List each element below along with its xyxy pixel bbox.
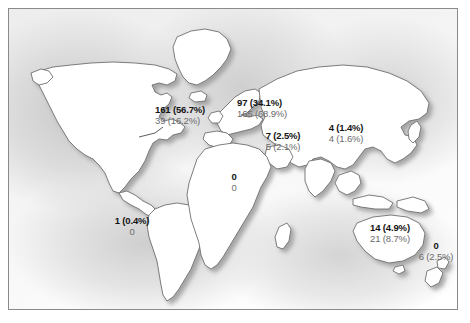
map-frame: 161 (56.7%) 39 (16.2%) 1 (0.4%) 0 97 (34… [8, 8, 458, 310]
label-middle-east-secondary: 5 (2.1%) [253, 142, 313, 153]
landmass-japan [408, 121, 421, 143]
landmass-north-america [39, 62, 185, 193]
label-new-zealand: 0 6 (2.5%) [412, 241, 458, 262]
label-east-asia: 4 (1.4%) 4 (1.6%) [315, 123, 377, 144]
label-africa-secondary: 0 [222, 183, 246, 194]
label-south-america-secondary: 0 [101, 227, 163, 238]
landmass-africa [187, 143, 271, 269]
label-europe: 97 (34.1%) 165 (68.9%) [237, 98, 287, 119]
figure-world-map: 161 (56.7%) 39 (16.2%) 1 (0.4%) 0 97 (34… [0, 0, 470, 323]
label-east-asia-secondary: 4 (1.6%) [315, 134, 377, 145]
landmass-new-zealand-south [425, 267, 443, 287]
landmass-iceland [189, 91, 207, 102]
landmass-india [305, 159, 335, 197]
landmass-southeast-asia [335, 171, 361, 195]
label-new-zealand-secondary: 6 (2.5%) [412, 252, 458, 263]
world-map-graphic [9, 9, 458, 310]
landmass-tasmania [393, 265, 405, 274]
landmass-greenland [173, 29, 231, 85]
label-middle-east: 7 (2.5%) 5 (2.1%) [253, 131, 313, 152]
label-north-america-secondary: 39 (16.2%) [155, 116, 205, 127]
landmass-indonesia [353, 195, 393, 209]
label-south-america: 1 (0.4%) 0 [101, 216, 163, 237]
label-north-america: 161 (56.7%) 39 (16.2%) [155, 105, 205, 126]
landmass-new-guinea [397, 197, 429, 213]
label-europe-secondary: 165 (68.9%) [237, 109, 287, 120]
label-africa: 0 0 [222, 172, 246, 193]
landmass-madagascar [275, 223, 291, 249]
